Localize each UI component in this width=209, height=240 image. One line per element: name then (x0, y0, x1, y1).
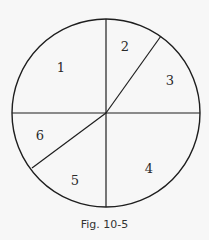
region-label-4: 4 (145, 161, 153, 176)
region-label-2: 2 (121, 39, 129, 54)
region-label-6: 6 (36, 128, 44, 143)
region-label-1: 1 (57, 60, 65, 75)
circle-partition-diagram: 1 2 3 4 5 6 (0, 0, 209, 240)
upper-right-radius (106, 36, 161, 113)
region-label-5: 5 (71, 173, 79, 188)
region-label-3: 3 (166, 73, 174, 88)
figure-caption: Fig. 10-5 (0, 218, 209, 231)
